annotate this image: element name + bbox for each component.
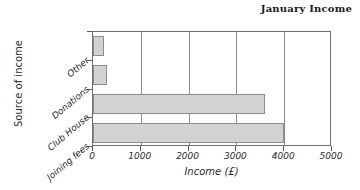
- y-axis-title: Source of income: [13, 24, 24, 144]
- bar-fill: [93, 65, 107, 85]
- chart-title: January Income: [261, 3, 352, 14]
- bar: [93, 94, 265, 114]
- bar-chart: January Income 010002000300040005000 Oth…: [0, 0, 360, 190]
- bar: [93, 123, 284, 143]
- y-tick-0: [87, 31, 92, 32]
- bar: [93, 36, 104, 56]
- x-tick-label-3000: 3000: [224, 151, 247, 161]
- x-axis-title: Income (£): [92, 166, 331, 177]
- bar-fill: [93, 36, 104, 56]
- bar-fill: [93, 123, 284, 143]
- plot-area: [92, 31, 331, 146]
- bars-layer: [93, 32, 330, 145]
- x-tick-label-5000: 5000: [320, 151, 343, 161]
- x-tick-label-1000: 1000: [128, 151, 151, 161]
- x-tick-label-2000: 2000: [176, 151, 199, 161]
- x-tick-label-0: 0: [89, 151, 95, 161]
- bar-fill: [93, 94, 265, 114]
- x-tick-label-4000: 4000: [272, 151, 295, 161]
- bar: [93, 65, 107, 85]
